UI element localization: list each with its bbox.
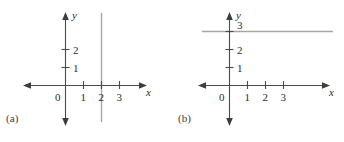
y-tick-label-1: 1 [73, 62, 79, 74]
x-axis-arrowhead-left-icon [198, 82, 206, 89]
panel-b: y x 0 1 2 3 1 2 3 (b) [172, 0, 344, 142]
x-tick-label-3: 3 [117, 91, 123, 103]
y-tick-label-2: 2 [73, 44, 79, 56]
x-tick-label-3: 3 [281, 91, 287, 103]
y-axis-label: y [71, 9, 77, 21]
two-panel-coordinate-figure: y x 0 1 2 3 1 2 (a) [0, 0, 344, 142]
y-axis-arrowhead-up-icon [62, 12, 69, 20]
origin-label: 0 [55, 91, 61, 103]
x-axis-label: x [145, 86, 151, 98]
y-axis-arrowhead-down-icon [226, 118, 233, 126]
x-axis-label: x [328, 86, 334, 98]
panel-b-graph: y x 0 1 2 3 1 2 3 [172, 0, 344, 142]
origin-label: 0 [219, 91, 225, 103]
panel-a-caption: (a) [6, 112, 19, 124]
panel-a: y x 0 1 2 3 1 2 (a) [0, 0, 172, 142]
x-tick-label-1: 1 [81, 91, 87, 103]
panel-b-caption: (b) [178, 112, 191, 124]
y-axis-arrowhead-up-icon [226, 12, 233, 20]
x-tick-label-2: 2 [263, 91, 269, 103]
y-tick-label-3: 3 [237, 19, 243, 31]
x-tick-label-2: 2 [99, 91, 105, 103]
y-tick-label-2: 2 [237, 44, 243, 56]
panel-a-graph: y x 0 1 2 3 1 2 [0, 0, 172, 142]
y-tick-label-1: 1 [237, 62, 243, 74]
x-tick-label-1: 1 [245, 91, 251, 103]
y-axis-arrowhead-down-icon [62, 118, 69, 126]
x-axis-arrowhead-left-icon [23, 82, 31, 89]
